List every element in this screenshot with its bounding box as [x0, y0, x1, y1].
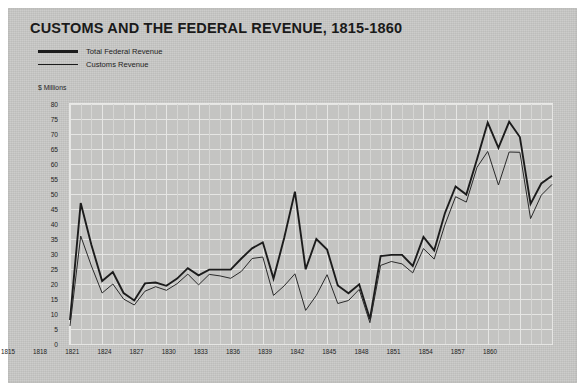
grid-line-horizontal — [70, 344, 552, 345]
y-axis-tick: 25 — [51, 266, 58, 273]
x-axis-tick: 1824 — [97, 348, 111, 355]
y-axis-tick: 15 — [51, 296, 58, 303]
y-axis-tick: 45 — [51, 206, 58, 213]
y-axis-tick: 55 — [51, 176, 58, 183]
y-axis-tick: 70 — [51, 131, 58, 138]
y-axis-tick: 65 — [51, 146, 58, 153]
x-axis-tick: 1857 — [451, 348, 465, 355]
y-axis-tick: 35 — [51, 236, 58, 243]
legend-item-customs-revenue: Customs Revenue — [38, 58, 162, 71]
x-axis-tick: 1818 — [33, 348, 47, 355]
y-axis-tick: 0 — [54, 341, 58, 348]
y-axis-tick: 75 — [51, 116, 58, 123]
data-lines — [70, 104, 552, 344]
y-axis-tick: 5 — [54, 326, 58, 333]
series-line-thick — [70, 122, 552, 320]
y-axis-tick: 10 — [51, 311, 58, 318]
x-axis-tick: 1854 — [419, 348, 433, 355]
y-axis-tick: 40 — [51, 221, 58, 228]
legend-line-swatch-thin — [38, 64, 78, 65]
y-axis-tick: 50 — [51, 191, 58, 198]
plot-area — [70, 104, 552, 344]
y-axis-tick: 20 — [51, 281, 58, 288]
y-axis-tick: 30 — [51, 251, 58, 258]
x-axis-tick-labels: 1815181818211824182718301833183618391842… — [70, 348, 552, 364]
y-axis-tick-labels: 05101520253035404550556065707580 — [8, 104, 66, 344]
y-axis-tick: 60 — [51, 161, 58, 168]
x-axis-tick: 1833 — [194, 348, 208, 355]
chart-title: CUSTOMS AND THE FEDERAL REVENUE, 1815-18… — [30, 20, 402, 36]
chart-legend: Total Federal Revenue Customs Revenue — [38, 45, 162, 71]
y-axis-units-label: $ Millions — [38, 84, 66, 91]
x-axis-tick: 1839 — [258, 348, 272, 355]
x-axis-tick: 1815 — [1, 348, 15, 355]
x-axis-tick: 1830 — [162, 348, 176, 355]
x-axis-tick: 1821 — [65, 348, 79, 355]
y-axis-tick: 80 — [51, 101, 58, 108]
grid-line-vertical — [552, 104, 553, 344]
x-axis-tick: 1827 — [130, 348, 144, 355]
x-axis-tick: 1848 — [354, 348, 368, 355]
x-axis-tick: 1842 — [290, 348, 304, 355]
x-axis-tick: 1860 — [483, 348, 497, 355]
chart-figure: CUSTOMS AND THE FEDERAL REVENUE, 1815-18… — [8, 8, 577, 383]
x-axis-tick: 1851 — [387, 348, 401, 355]
x-axis-tick: 1845 — [322, 348, 336, 355]
legend-line-swatch-thick — [38, 50, 78, 52]
legend-label-total-federal-revenue: Total Federal Revenue — [86, 47, 162, 56]
legend-label-customs-revenue: Customs Revenue — [86, 60, 148, 69]
series-line-thin — [70, 151, 552, 326]
x-axis-tick: 1836 — [226, 348, 240, 355]
legend-item-total-federal-revenue: Total Federal Revenue — [38, 45, 162, 58]
